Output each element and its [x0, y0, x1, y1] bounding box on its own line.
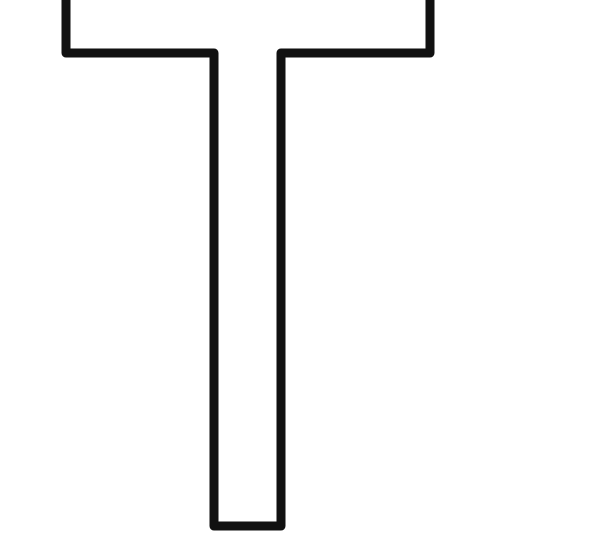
t-shape-outline [0, 0, 605, 555]
drawing-canvas [0, 0, 605, 555]
t-shape-path [66, 0, 430, 526]
